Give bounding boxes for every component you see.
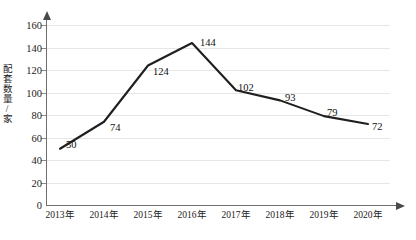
value-label-2015: 124 <box>153 67 169 78</box>
value-label-2016: 144 <box>200 38 216 49</box>
y-tick-label-100: 100 <box>8 89 42 100</box>
value-label-2018: 93 <box>285 93 296 104</box>
value-label-2019: 79 <box>327 108 338 119</box>
y-tick-label-60: 60 <box>8 134 42 145</box>
y-axis-title: 配套数量/家 <box>0 64 13 124</box>
gridline-20 <box>47 183 390 184</box>
y-tick-label-0: 0 <box>8 201 42 212</box>
y-tick-label-20: 20 <box>8 179 42 190</box>
x-axis-arrow-icon <box>396 202 405 210</box>
y-tick-label-140: 140 <box>8 44 42 55</box>
x-axis-line <box>46 205 397 206</box>
y-tick-label-80: 80 <box>8 111 42 122</box>
gridline-60 <box>47 138 390 139</box>
value-label-2014: 74 <box>110 123 121 134</box>
value-label-2013: 50 <box>66 140 77 151</box>
gridline-80 <box>47 115 390 116</box>
x-tick-label-2020: 2020年 <box>342 211 394 221</box>
line-chart: 160 140 120 100 80 60 40 20 0 配套数量/家 201… <box>0 0 416 240</box>
value-label-2020: 72 <box>372 122 383 133</box>
gridline-120 <box>47 70 390 71</box>
y-tick-label-40: 40 <box>8 156 42 167</box>
plot-area <box>47 25 390 205</box>
y-tick-label-120: 120 <box>8 66 42 77</box>
y-tick-label-160: 160 <box>8 21 42 32</box>
gridline-160 <box>47 25 390 26</box>
y-axis-arrow-icon <box>43 11 51 20</box>
gridline-140 <box>47 48 390 49</box>
value-label-2017: 102 <box>238 83 254 94</box>
gridline-40 <box>47 160 390 161</box>
y-axis-line <box>46 18 47 206</box>
gridline-100 <box>47 93 390 94</box>
